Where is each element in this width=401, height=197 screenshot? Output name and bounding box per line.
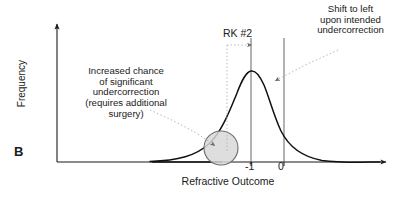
undercorrection-region-circle — [204, 131, 238, 165]
increased-undercorrection-annotation: Increased chance of significant undercor… — [66, 66, 186, 120]
x-tick-label-minus-one: -1 — [245, 161, 254, 173]
shift-note-leader — [275, 50, 338, 81]
rk2-annotation-label: RK #2 — [223, 28, 252, 40]
shift-to-left-annotation: Shift to left upon intended undercorrect… — [303, 4, 398, 36]
figure-panel-b: B Frequency Refractive Outcome -1 0 RK #… — [0, 0, 401, 197]
x-axis-title: Refractive Outcome — [153, 176, 303, 188]
panel-letter-label: B — [14, 145, 24, 160]
x-tick-label-zero: 0 — [278, 161, 284, 173]
y-axis-title: Frequency — [16, 44, 27, 124]
